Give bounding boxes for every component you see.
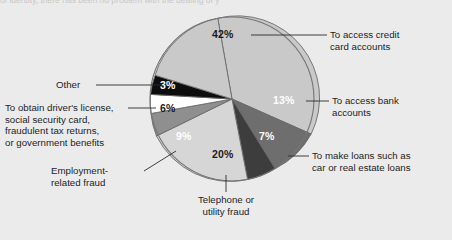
data-label-3: 3% <box>160 79 175 91</box>
data-label-13: 13% <box>273 94 294 106</box>
callout-other: Other <box>56 79 100 91</box>
callout-loans: To make loans such as car or real estate… <box>312 150 452 173</box>
data-label-42: 42% <box>212 28 233 40</box>
callout-employment: Employment- related fraud <box>51 165 146 188</box>
data-label-9: 9% <box>176 130 191 142</box>
data-label-7: 7% <box>259 130 274 142</box>
data-label-6: 6% <box>160 102 175 114</box>
chart-canvas: of identity, there has been no problem w… <box>0 0 452 240</box>
callout-bank: To access bank accounts <box>332 95 448 118</box>
callout-telephone: Telephone or utility fraud <box>176 194 276 217</box>
leader-employment <box>144 151 176 171</box>
callout-drivers-license: To obtain driver's license, social secur… <box>5 102 129 148</box>
data-label-20: 20% <box>212 148 233 160</box>
callout-credit-card: To access credit card accounts <box>330 29 448 52</box>
